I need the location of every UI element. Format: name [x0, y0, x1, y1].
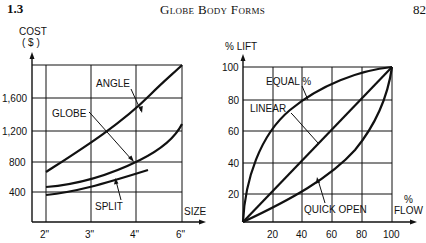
- globe-label: GLOBE: [52, 108, 87, 119]
- xtick-3in: 3": [85, 229, 95, 240]
- left-x-title: SIZE: [184, 206, 207, 217]
- quick-open-label: QUICK OPEN: [304, 204, 367, 215]
- ytick-100: 100: [222, 62, 239, 73]
- left-y-title-unit: ( $ ): [22, 37, 40, 48]
- right-x-arrow-icon: [410, 220, 417, 225]
- xtick-4in: 4": [130, 229, 140, 240]
- left-y-title: COST: [19, 26, 47, 37]
- xtick-100: 100: [383, 229, 400, 240]
- equal-percent-label: EQUAL %: [266, 76, 311, 87]
- ytick-60: 60: [228, 126, 240, 137]
- xtick-2in: 2": [40, 229, 50, 240]
- ytick-800: 800: [9, 157, 26, 168]
- globe-curve: [46, 124, 182, 187]
- xtick-60: 60: [326, 229, 338, 240]
- linear-leader: [291, 113, 318, 143]
- right-x-title-pct: %: [404, 194, 413, 205]
- angle-label: ANGLE: [96, 78, 130, 89]
- ytick-1600: 1,600: [2, 93, 27, 104]
- xtick-20: 20: [267, 229, 279, 240]
- right-y-arrow-icon: [241, 54, 246, 61]
- linear-label: LINEAR: [250, 103, 286, 114]
- xtick-40: 40: [296, 229, 308, 240]
- left-y-arrow-icon: [30, 52, 35, 59]
- left-x-arrow-icon: [199, 220, 206, 225]
- ytick-400: 400: [9, 187, 26, 198]
- ytick-20: 20: [228, 189, 240, 200]
- charts: COST ( $ ) 1,600 1,200 800 400 2" 3" 4" …: [0, 0, 426, 243]
- globe-leader: [89, 112, 132, 160]
- right-y-title: % LIFT: [225, 41, 257, 52]
- xtick-6in: 6": [176, 229, 186, 240]
- quick-leader: [318, 180, 325, 203]
- split-label: SPLIT: [95, 201, 123, 212]
- xtick-80: 80: [356, 229, 368, 240]
- right-x-title: FLOW: [394, 205, 423, 216]
- ytick-80: 80: [228, 95, 240, 106]
- ytick-40: 40: [228, 158, 240, 169]
- ytick-1200: 1,200: [2, 126, 27, 137]
- split-curve: [46, 170, 148, 195]
